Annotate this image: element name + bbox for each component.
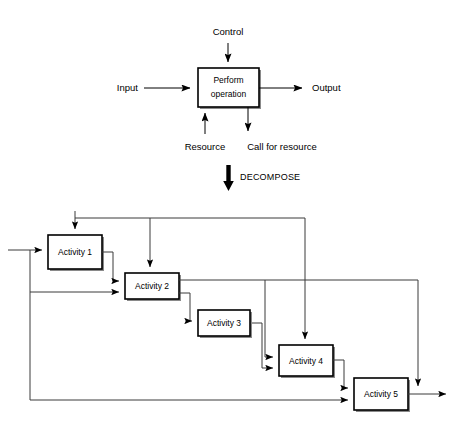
activity-1-label: Activity 1 <box>58 247 92 257</box>
activity-3-label: Activity 3 <box>207 318 241 328</box>
call-for-resource-label: Call for resource <box>247 141 317 152</box>
link-activity3-to-activity4 <box>252 323 273 368</box>
link-activity1-to-activity2 <box>102 252 119 281</box>
perform-operation-label-line2: operation <box>211 89 247 99</box>
activity-2-box: Activity 2 <box>125 273 181 301</box>
control-label: Control <box>213 26 244 37</box>
link-activity4-to-activity5 <box>333 360 348 388</box>
activity-5-box: Activity 5 <box>354 378 410 412</box>
activity-5-label: Activity 5 <box>364 389 398 399</box>
decompose-label: DECOMPOSE <box>240 172 300 182</box>
decomposition-diagram: Control Input Perform operation Output <box>0 0 460 428</box>
top-model-group: Control Input Perform operation Output <box>117 26 341 152</box>
activity-4-box: Activity 4 <box>279 345 335 378</box>
decomposed-model-group: Activity 1 Activity 2 <box>8 211 446 412</box>
output-label: Output <box>312 82 341 93</box>
activity-4-label: Activity 4 <box>289 356 323 366</box>
perform-operation-label-line1: Perform <box>213 75 243 85</box>
activity-2-label: Activity 2 <box>135 281 169 291</box>
perform-operation-box: Perform operation <box>198 68 261 109</box>
activity-1-box: Activity 1 <box>48 235 104 271</box>
resource-label: Resource <box>185 141 226 152</box>
diagram-canvas: Control Input Perform operation Output <box>0 0 460 428</box>
input-label: Input <box>117 82 138 93</box>
activity-3-box: Activity 3 <box>198 310 252 338</box>
decompose-transition: DECOMPOSE <box>223 165 300 191</box>
